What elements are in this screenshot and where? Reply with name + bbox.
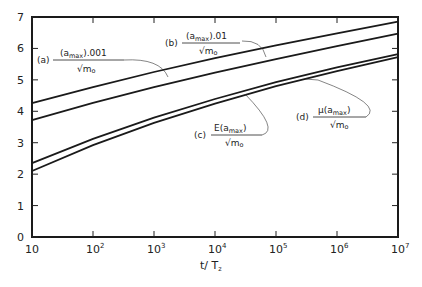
y-tick-label: 7 — [17, 11, 24, 24]
svg-text:√mo: √mo — [199, 46, 218, 57]
annotation-d: (d) μ(amax) √mo — [296, 79, 370, 131]
x-tick-label: 107 — [391, 242, 409, 256]
svg-text:E(amax): E(amax) — [214, 123, 246, 135]
svg-text:(amax).01: (amax).01 — [186, 31, 227, 43]
y-tick-label: 5 — [17, 74, 24, 87]
y-tick-label: 3 — [17, 137, 24, 150]
chart: 01234567 10102103104105106107 t/ Tz (a) … — [0, 0, 422, 287]
x-tick-label: 103 — [147, 242, 165, 256]
x-tick-label: 104 — [208, 242, 227, 256]
svg-text:√mo: √mo — [225, 138, 244, 149]
y-tick-label: 2 — [17, 168, 24, 181]
y-tick-label: 4 — [17, 105, 24, 118]
x-tick-label: 10 — [25, 243, 39, 256]
series-line-b — [32, 34, 398, 120]
annotation-b: (b) (amax).01 √mo — [165, 31, 266, 57]
x-axis-label: t/ Tz — [200, 259, 222, 273]
svg-text:(a): (a) — [37, 55, 50, 65]
svg-text:(b): (b) — [165, 38, 178, 48]
svg-text:(c): (c) — [194, 130, 206, 140]
svg-text:(d): (d) — [296, 112, 309, 122]
svg-text:√mo: √mo — [77, 64, 96, 75]
svg-text:μ(amax): μ(amax) — [318, 105, 350, 117]
y-tick-label: 6 — [17, 42, 24, 55]
figure-caption — [4, 276, 418, 286]
x-tick-label: 106 — [330, 242, 349, 256]
x-tick-label: 105 — [269, 242, 287, 256]
x-tick-label: 102 — [86, 242, 104, 256]
y-tick-label: 1 — [17, 200, 24, 213]
svg-text:(amax).001: (amax).001 — [60, 48, 107, 60]
svg-text:√mo: √mo — [330, 120, 349, 131]
y-tick-label: 0 — [17, 231, 24, 244]
series-lines — [32, 22, 398, 171]
